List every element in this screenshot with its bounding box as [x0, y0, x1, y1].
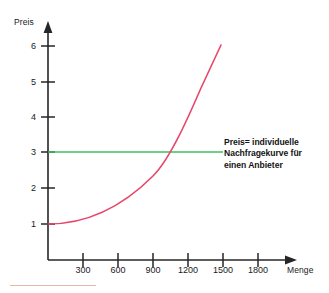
y-axis-arrowhead	[44, 21, 53, 33]
chart-figure: Preis Menge 6 5 4 3 2 1 300 600 900 1200…	[0, 0, 329, 293]
y-tick-label-2: 2	[22, 184, 36, 193]
y-tick-label-1: 1	[22, 220, 36, 229]
x-axis	[48, 256, 297, 265]
x-tick-label-600: 600	[103, 266, 133, 275]
x-tick-label-1800: 1800	[243, 266, 273, 275]
annotation-line-1: Preis= individuelle	[224, 137, 328, 148]
annotation-line-2: Nachfragekurve für	[224, 148, 328, 159]
y-axis-title: Preis	[14, 17, 34, 27]
x-tick-label-300: 300	[68, 266, 98, 275]
x-tick-label-1200: 1200	[173, 266, 203, 275]
x-axis-arrowhead	[285, 256, 297, 265]
y-tick-label-4: 4	[22, 113, 36, 122]
y-tick-label-5: 5	[22, 78, 36, 87]
x-tick-label-900: 900	[138, 266, 168, 275]
price-line-annotation: Preis= individuelle Nachfragekurve für e…	[224, 137, 328, 171]
x-axis-title: Menge	[287, 265, 314, 275]
annotation-line-3: einen Anbieter	[224, 160, 328, 171]
y-tick-label-6: 6	[22, 42, 36, 51]
y-tick-label-3: 3	[22, 148, 36, 157]
x-tick-label-1500: 1500	[208, 266, 238, 275]
supply-curve-series	[48, 45, 221, 224]
footer-divider	[10, 285, 96, 286]
